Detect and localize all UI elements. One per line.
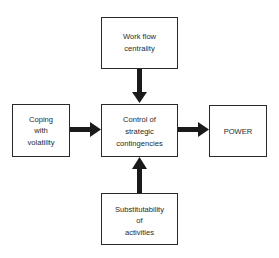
arrow-coping-to-control — [70, 122, 101, 137]
node-coping-line-3: volatility — [27, 138, 54, 147]
node-substitutability-line-2: of — [136, 216, 143, 225]
node-control-line-1: Control of — [123, 115, 157, 124]
node-workflow-centrality: Work flow centrality — [102, 18, 178, 69]
node-control-line-3: contingencies — [116, 139, 163, 148]
node-coping-with-volatility: Coping with volatility — [13, 105, 70, 157]
node-power-label: POWER — [224, 127, 253, 136]
node-substitutability-line-1: Substitutability — [115, 205, 164, 214]
node-workflow-line-2: centrality — [124, 44, 155, 53]
node-control-of-strategic-contingencies: Control of strategic contingencies — [102, 105, 178, 157]
node-coping-line-2: with — [33, 126, 48, 135]
arrow-workflow-to-control — [132, 69, 147, 103]
node-workflow-line-1: Work flow — [123, 32, 157, 41]
node-power: POWER — [210, 106, 267, 157]
node-substitutability-line-3: activities — [125, 228, 154, 237]
node-coping-line-1: Coping — [29, 115, 53, 124]
strategic-contingencies-diagram: Work flow centrality Coping with volatil… — [0, 0, 279, 258]
arrow-substitutability-to-control — [132, 157, 147, 193]
node-substitutability-of-activities: Substitutability of activities — [102, 194, 178, 245]
arrow-control-to-power — [178, 122, 209, 137]
node-control-line-2: strategic — [125, 127, 154, 136]
